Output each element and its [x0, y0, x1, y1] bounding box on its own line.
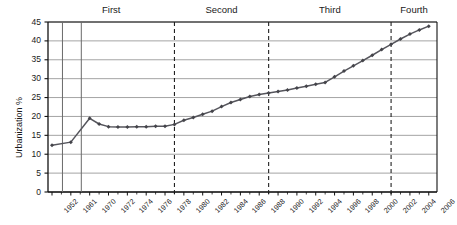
- data-point-marker: [116, 125, 120, 129]
- data-point-marker: [107, 125, 111, 129]
- data-point-marker: [257, 93, 261, 97]
- data-point-marker: [201, 112, 205, 116]
- data-point-marker: [285, 88, 289, 92]
- data-point-marker: [276, 90, 280, 94]
- data-point-marker: [427, 24, 431, 28]
- data-point-marker: [238, 97, 242, 101]
- data-point-marker: [267, 91, 271, 95]
- data-point-marker: [50, 143, 54, 147]
- data-point-marker: [163, 124, 167, 128]
- data-point-marker: [135, 125, 139, 129]
- data-point-marker: [154, 124, 158, 128]
- data-point-marker: [144, 125, 148, 129]
- data-point-marker: [304, 84, 308, 88]
- data-point-marker: [125, 125, 129, 129]
- data-point-marker: [295, 86, 299, 90]
- data-point-marker: [314, 82, 318, 86]
